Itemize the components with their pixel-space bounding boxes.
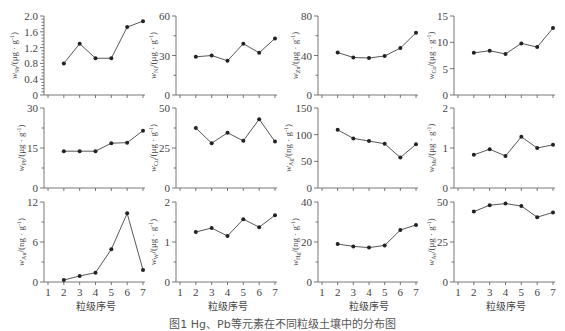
y-axis-label: wCu/(μg · g-1) (148, 124, 159, 172)
y-tick-label: 6 (33, 236, 39, 248)
y-tick-label: 0 (165, 182, 171, 194)
y-tick-label: 40 (301, 50, 313, 62)
x-tick-label: 4 (503, 286, 509, 298)
data-point (367, 139, 371, 143)
data-point (94, 56, 98, 60)
data-point (535, 45, 539, 49)
x-tick-label: 7 (550, 286, 556, 298)
data-point (551, 143, 555, 147)
data-point (551, 26, 555, 30)
y-tick-label: 10 (437, 36, 449, 48)
data-point (472, 153, 476, 157)
data-point (414, 223, 418, 227)
subplot-ni: 03060wNi/(μg · g-1) (148, 10, 277, 101)
x-tick-label: 6 (534, 286, 540, 298)
subplot-as: 1234567粒级序号02550wAs/(μg · g-1) (426, 196, 556, 312)
x-tick-label: 7 (140, 286, 146, 298)
y-axis-label: wAu/(ng · g-1) (16, 218, 27, 266)
x-tick-label: 5 (382, 286, 388, 298)
subplot-sb: 00.40.81.21.62.0wSb/(μg · g-1) (9, 10, 145, 101)
data-point (488, 49, 492, 53)
x-axis-label: 粒级序号 (76, 300, 116, 312)
data-point (273, 140, 277, 144)
data-point (398, 46, 402, 50)
y-tick-label: 0 (443, 276, 449, 288)
data-point (504, 154, 508, 158)
x-tick-label: 4 (93, 286, 99, 298)
data-point (210, 141, 214, 145)
y-tick-label: 80 (301, 10, 313, 22)
y-tick-label: 20 (301, 236, 313, 248)
y-tick-label: 30 (159, 50, 171, 62)
data-point (78, 149, 82, 153)
data-point (336, 242, 340, 246)
y-axis-label: wNi/(μg · g-1) (148, 32, 159, 79)
data-point (109, 141, 113, 145)
data-point (62, 149, 66, 153)
data-point (94, 149, 98, 153)
data-line (474, 137, 553, 156)
x-tick-label: 6 (124, 286, 130, 298)
data-point (472, 51, 476, 55)
y-axis-label: wMo/(μg · g-1) (426, 123, 437, 172)
data-point (414, 31, 418, 35)
x-axis-label: 粒级序号 (208, 300, 248, 312)
data-point (194, 126, 198, 130)
data-point (194, 230, 198, 234)
subplot-co: 051015wCo/(μg · g-1) (426, 10, 555, 101)
data-point (414, 142, 418, 146)
y-tick-label: 0 (165, 89, 171, 101)
x-tick-label: 1 (319, 286, 325, 298)
y-tick-label: 40 (301, 196, 313, 208)
data-line (64, 131, 143, 152)
y-tick-label: 0 (33, 89, 39, 101)
data-point (241, 42, 245, 46)
x-tick-label: 1 (45, 286, 51, 298)
y-tick-label: 0 (307, 89, 313, 101)
x-tick-label: 4 (225, 286, 231, 298)
y-tick-label: 0 (33, 276, 39, 288)
y-tick-label: 1 (165, 236, 171, 248)
y-axis-label: wPb/(μg · g-1) (16, 124, 27, 171)
data-point (504, 202, 508, 206)
data-point (351, 55, 355, 59)
y-axis-label: wCo/(μg · g-1) (426, 32, 437, 80)
y-tick-label: 0 (307, 182, 313, 194)
data-line (64, 21, 143, 63)
x-tick-label: 3 (77, 286, 83, 298)
x-tick-label: 1 (177, 286, 183, 298)
data-point (257, 117, 261, 121)
subplot-w: 1234567粒级序号012wW/(μg · g-1) (148, 196, 278, 312)
data-point (488, 203, 492, 207)
y-tick-label: 25 (437, 236, 449, 248)
data-point (241, 217, 245, 221)
data-line (64, 213, 143, 280)
subplot-pb: 01530wPb/(μg · g-1) (16, 102, 145, 194)
data-point (519, 204, 523, 208)
data-point (194, 55, 198, 59)
data-point (535, 215, 539, 219)
data-point (109, 247, 113, 251)
data-point (62, 61, 66, 65)
data-point (62, 278, 66, 282)
y-tick-label: 15 (27, 142, 39, 154)
y-tick-label: 100 (296, 129, 313, 141)
data-point (141, 129, 145, 133)
data-point (398, 228, 402, 232)
y-tick-label: 0.4 (24, 73, 38, 85)
data-point (383, 54, 387, 58)
y-tick-label: 0 (307, 276, 313, 288)
y-tick-label: 2 (165, 196, 171, 208)
y-tick-label: 30 (27, 102, 39, 114)
data-line (196, 38, 275, 60)
x-tick-label: 2 (471, 286, 477, 298)
x-axis-label: 粒级序号 (486, 300, 526, 312)
data-point (94, 271, 98, 275)
subplot-ag: 050100150wAg/(ng · g-1) (283, 102, 418, 194)
x-tick-label: 7 (413, 286, 419, 298)
y-tick-label: 0 (443, 89, 449, 101)
data-line (474, 204, 553, 218)
data-line (338, 130, 416, 158)
y-axis-label: wAg/(ng · g-1) (283, 124, 294, 172)
subplot-hg: 1234567粒级序号02040wHg/(ng · g-1) (290, 196, 419, 312)
